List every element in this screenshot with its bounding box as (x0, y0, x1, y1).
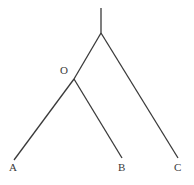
edge-o-to-a (14, 79, 74, 160)
node-label-c: C (174, 162, 181, 173)
edge-group (14, 8, 178, 160)
node-label-o: O (60, 65, 68, 76)
diagram-canvas: O A B C (0, 0, 194, 185)
node-label-a: A (9, 162, 17, 173)
edge-root-to-c (101, 33, 178, 158)
tree-diagram-svg (0, 0, 194, 185)
edge-root-to-o (74, 33, 101, 79)
edge-o-to-b (74, 79, 122, 158)
node-label-b: B (118, 162, 125, 173)
